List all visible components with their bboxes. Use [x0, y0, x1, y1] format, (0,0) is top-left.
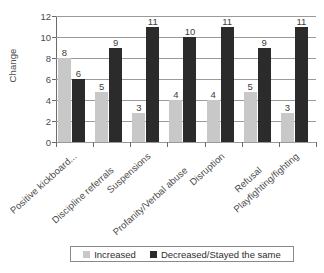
- bar-group: 311: [279, 16, 316, 142]
- bar-value-label: 9: [262, 37, 267, 48]
- x-tick-mark: [205, 142, 206, 147]
- bar-increased: 4: [169, 100, 182, 142]
- bar-decreased: 11: [146, 27, 159, 143]
- bar-decreased: 6: [72, 79, 85, 142]
- legend-item: Increased: [83, 249, 136, 260]
- x-tick-mark: [93, 142, 94, 147]
- bar-value-label: 11: [222, 16, 232, 27]
- bar-increased: 8: [58, 58, 71, 142]
- bar-value-label: 5: [99, 81, 104, 92]
- x-tick-mark: [279, 142, 280, 147]
- bar-value-label: 3: [136, 102, 141, 113]
- bar-group: 59: [93, 16, 130, 142]
- y-gridline: [56, 142, 316, 143]
- bar-value-label: 10: [185, 26, 196, 37]
- legend-label: Increased: [94, 249, 136, 260]
- bar-value-label: 5: [248, 81, 253, 92]
- bar-value-label: 6: [76, 68, 81, 79]
- y-tick-label: 4: [46, 95, 51, 106]
- y-tick-label: 6: [46, 74, 51, 85]
- bar-value-label: 4: [173, 89, 178, 100]
- bar-value-label: 11: [148, 16, 158, 27]
- bar-value-label: 4: [210, 89, 215, 100]
- bar-value-label: 9: [113, 37, 118, 48]
- x-tick-mark: [56, 142, 57, 147]
- bar-value-label: 3: [285, 102, 290, 113]
- bar-decreased: 11: [295, 27, 308, 143]
- bar-increased: 5: [95, 92, 108, 142]
- bar-increased: 4: [207, 100, 220, 142]
- bar-group: 411: [205, 16, 242, 142]
- chart-legend: IncreasedDecreased/Stayed the same: [70, 246, 294, 262]
- bar-increased: 3: [281, 113, 294, 142]
- bar-increased: 3: [132, 113, 145, 142]
- bar-decreased: 9: [109, 48, 122, 143]
- bar-group: 410: [167, 16, 204, 142]
- y-tick-label: 0: [46, 137, 51, 148]
- bar-group: 311: [130, 16, 167, 142]
- y-axis-title: Change: [7, 36, 18, 96]
- x-tick-mark: [316, 142, 317, 147]
- bar-decreased: 10: [183, 37, 196, 142]
- bar-decreased: 11: [221, 27, 234, 143]
- legend-swatch: [150, 251, 157, 258]
- legend-item: Decreased/Stayed the same: [150, 249, 281, 260]
- y-tick-label: 10: [40, 32, 51, 43]
- bar-value-label: 11: [296, 16, 306, 27]
- legend-label: Decreased/Stayed the same: [161, 249, 281, 260]
- bar-group: 59: [242, 16, 279, 142]
- bar-value-label: 8: [62, 47, 67, 58]
- y-tick-label: 2: [46, 116, 51, 127]
- bar-chart: Change 024681012865931141041159311 Posit…: [0, 0, 324, 273]
- x-axis-labels: Positive kickboard...Discipline referral…: [0, 147, 324, 227]
- y-tick-label: 8: [46, 53, 51, 64]
- bar-decreased: 9: [258, 48, 271, 143]
- legend-swatch: [83, 251, 90, 258]
- plot-area: 024681012865931141041159311: [56, 16, 316, 142]
- x-tick-mark: [242, 142, 243, 147]
- bar-increased: 5: [244, 92, 257, 142]
- x-tick-mark: [167, 142, 168, 147]
- bar-group: 86: [56, 16, 93, 142]
- y-tick-label: 12: [40, 11, 51, 22]
- x-tick-mark: [130, 142, 131, 147]
